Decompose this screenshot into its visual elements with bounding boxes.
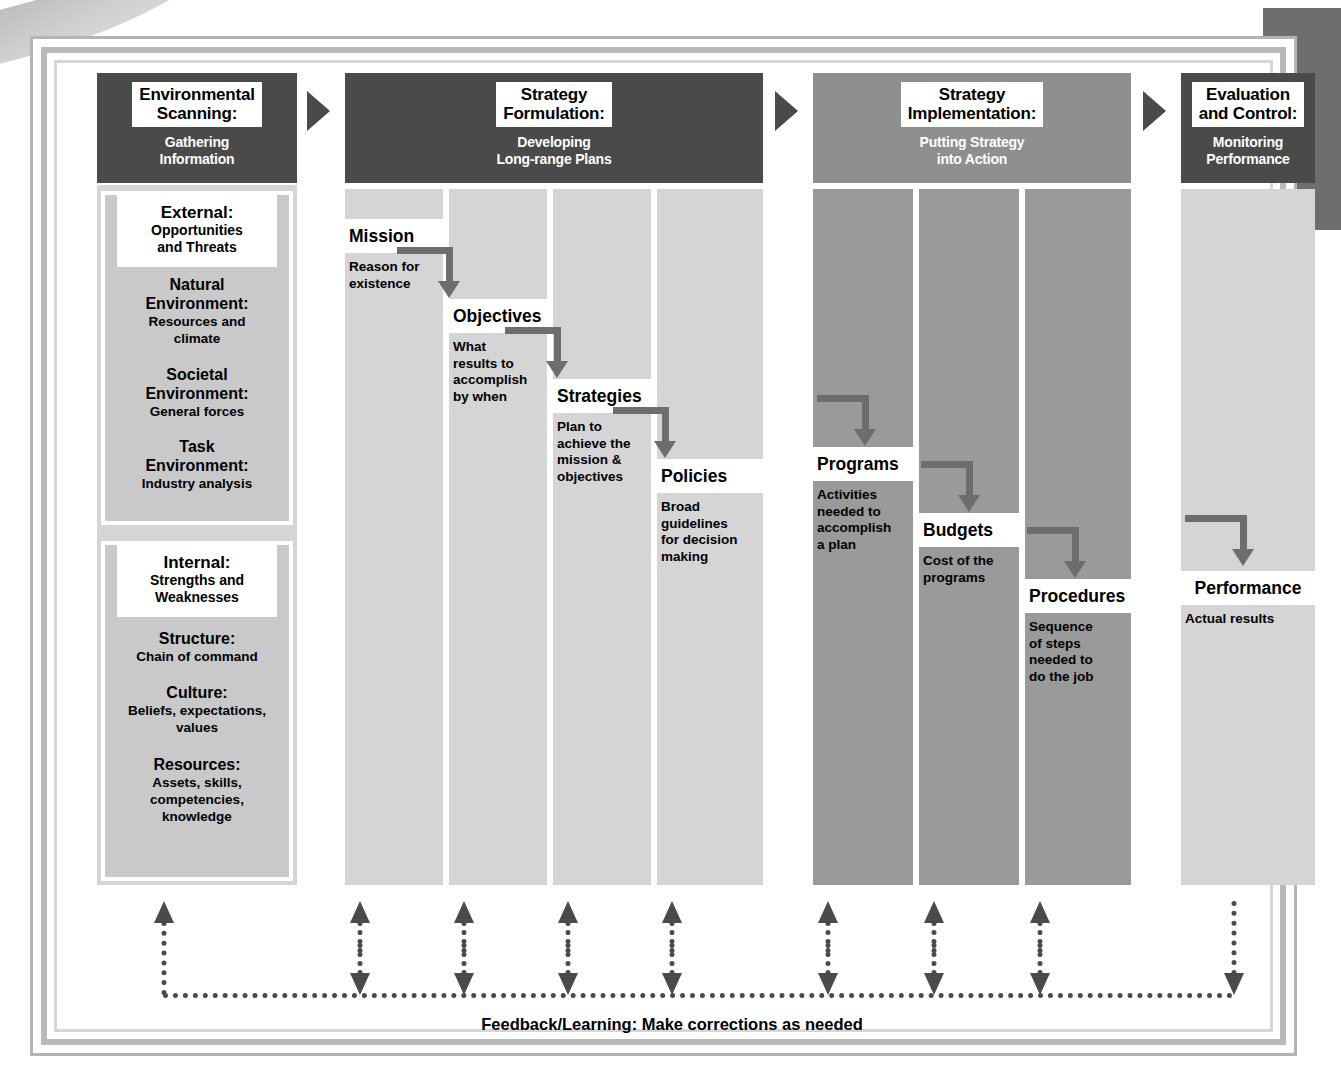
section-header-evaluation-and-control: Evaluation and Control: Monitoring Perfo… bbox=[1181, 73, 1315, 183]
section-subtitle-evaluation-and-control: Monitoring Performance bbox=[1206, 134, 1289, 168]
feedback-arrow-down-programs bbox=[817, 943, 839, 995]
feedback-caption: Feedback/Learning: Make corrections as n… bbox=[57, 1015, 1287, 1034]
feedback-arrow-up-scanning bbox=[153, 901, 175, 995]
step-label-programs: Programs bbox=[813, 447, 913, 481]
section-header-environmental-scanning: Environmental Scanning: Gathering Inform… bbox=[97, 73, 297, 183]
column-strategies bbox=[553, 189, 651, 885]
section-title-strategy-implementation: Strategy Implementation: bbox=[901, 82, 1043, 127]
section-title-environmental-scanning: Environmental Scanning: bbox=[132, 82, 261, 127]
section-subtitle-strategy-implementation: Putting Strategy into Action bbox=[920, 134, 1025, 168]
feedback-loop-line bbox=[163, 993, 1233, 998]
step-desc-procedures: Sequence of steps needed to do the job bbox=[1029, 619, 1131, 685]
panel-internal-title: Internal: Strengths and Weaknesses bbox=[117, 541, 277, 617]
flow-arrow-mission-to-objectives bbox=[397, 247, 453, 303]
group-structure: Structure: Chain of command bbox=[107, 629, 287, 665]
diagram-canvas: Environmental Scanning: Gathering Inform… bbox=[57, 63, 1270, 1029]
column-objectives bbox=[449, 189, 547, 885]
group-task-environment: Task Environment: Industry analysis bbox=[107, 437, 287, 492]
flow-arrow-budgets-to-procedures bbox=[1027, 527, 1079, 583]
section-subtitle-strategy-formulation: Developing Long-range Plans bbox=[496, 134, 611, 168]
section-header-strategy-implementation: Strategy Implementation: Putting Strateg… bbox=[813, 73, 1131, 183]
step-label-budgets: Budgets bbox=[919, 513, 1019, 547]
flow-arrow-into-programs bbox=[817, 395, 869, 451]
step-desc-programs: Activities needed to accomplish a plan bbox=[817, 487, 913, 553]
feedback-arrow-down-performance bbox=[1223, 901, 1245, 995]
feedback-arrow-down-policies bbox=[661, 943, 683, 995]
connector-arrow-3 bbox=[1143, 91, 1166, 131]
figure-frame-outer: Environmental Scanning: Gathering Inform… bbox=[30, 36, 1297, 1056]
feedback-arrow-down-budgets bbox=[923, 943, 945, 995]
step-desc-performance: Actual results bbox=[1185, 611, 1315, 628]
step-desc-budgets: Cost of the programs bbox=[923, 553, 1019, 586]
flow-arrow-strategies-to-policies bbox=[613, 407, 669, 463]
section-header-strategy-formulation: Strategy Formulation: Developing Long-ra… bbox=[345, 73, 763, 183]
section-title-strategy-formulation: Strategy Formulation: bbox=[496, 82, 611, 127]
figure-frame-inner: Environmental Scanning: Gathering Inform… bbox=[54, 60, 1273, 1032]
flow-arrow-objectives-to-strategies bbox=[505, 327, 561, 383]
feedback-arrow-down-mission bbox=[349, 943, 371, 995]
step-label-performance: Performance bbox=[1181, 571, 1315, 605]
flow-arrow-programs-to-budgets bbox=[921, 461, 973, 517]
section-subtitle-environmental-scanning: Gathering Information bbox=[160, 134, 235, 168]
connector-arrow-2 bbox=[775, 91, 798, 131]
group-societal-environment: Societal Environment: General forces bbox=[107, 365, 287, 420]
feedback-arrow-down-strategies bbox=[557, 943, 579, 995]
connector-arrow-1 bbox=[307, 91, 330, 131]
figure-frame-middle: Environmental Scanning: Gathering Inform… bbox=[41, 47, 1286, 1045]
group-resources: Resources: Assets, skills, competencies,… bbox=[101, 755, 293, 825]
feedback-arrow-down-objectives bbox=[453, 943, 475, 995]
step-label-policies: Policies bbox=[657, 459, 763, 493]
step-label-procedures: Procedures bbox=[1025, 579, 1137, 613]
section-title-evaluation-and-control: Evaluation and Control: bbox=[1192, 82, 1305, 127]
step-desc-policies: Broad guidelines for decision making bbox=[661, 499, 763, 565]
group-culture: Culture: Beliefs, expectations, values bbox=[101, 683, 293, 736]
flow-arrow-into-performance bbox=[1185, 515, 1247, 571]
group-natural-environment: Natural Environment: Resources and clima… bbox=[107, 275, 287, 347]
panel-external-title: External: Opportunities and Threats bbox=[117, 191, 277, 267]
feedback-arrow-down-procedures bbox=[1029, 943, 1051, 995]
